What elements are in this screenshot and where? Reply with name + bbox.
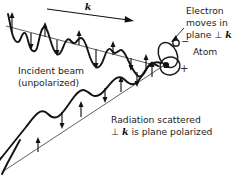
nucleus-dot	[163, 62, 169, 68]
scattered-label-line2: ⊥ k is plane polarized	[111, 126, 212, 137]
electron-label-line3: plane ⊥ k	[186, 29, 232, 40]
k-symbol-electron: k	[225, 29, 232, 40]
nucleus-charge-label: +	[180, 63, 188, 74]
wavevector-arrow-head	[125, 16, 135, 23]
electron-label-line1: Electron	[186, 5, 224, 16]
atom-group: − +	[154, 36, 189, 77]
electron-label-plane-word: plane	[186, 29, 214, 40]
scattered-label-rest: is plane polarized	[129, 126, 213, 137]
electron-label-line2: moves in	[186, 17, 228, 28]
perp-symbol-electron: ⊥	[214, 29, 225, 40]
atom-label: Atom	[193, 46, 217, 57]
wavevector-label: k	[85, 1, 92, 12]
perp-symbol-scattered: ⊥	[111, 126, 122, 137]
wavevector-arrow-group: k	[47, 1, 134, 23]
incident-beam-label-line2: (unpolarized)	[18, 77, 79, 88]
text-labels: Electron moves in plane ⊥ k Atom Inciden…	[18, 5, 232, 137]
scattered-label-line1: Radiation scattered	[111, 114, 201, 125]
incident-beam-label-line1: Incident beam	[18, 65, 84, 76]
scattering-diagram: k − +	[0, 0, 247, 185]
